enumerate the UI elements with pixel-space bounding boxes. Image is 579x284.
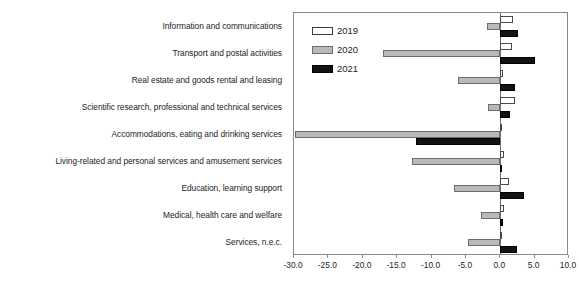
category-label: Real estate and goods rental and leasing (0, 75, 282, 85)
x-tick-mark (568, 255, 569, 258)
plot-area: 2019 2020 2021 (293, 12, 568, 255)
category-label: Accommodations, eating and drinking serv… (0, 129, 282, 139)
legend-label-2021: 2021 (337, 63, 358, 74)
bar-2019-1 (500, 43, 512, 50)
category-label: Living-related and personal services and… (0, 156, 282, 166)
bar-2019-7 (500, 205, 504, 212)
legend-swatch-2021 (312, 65, 333, 73)
horizontal-bar-chart: Information and communicationsTransport … (0, 0, 579, 284)
legend-label-2020: 2020 (337, 44, 358, 55)
bar-2020-1 (383, 50, 500, 57)
x-tick-mark (465, 255, 466, 258)
x-tick-label: -30.0 (283, 260, 302, 270)
x-tick-label: -15.0 (387, 260, 406, 270)
category-label: Transport and postal activities (0, 48, 282, 58)
x-tick-mark (362, 255, 363, 258)
x-tick-label: -20.0 (352, 260, 371, 270)
bar-2019-5 (500, 151, 504, 158)
bar-2020-6 (454, 185, 500, 192)
bar-2021-8 (500, 246, 517, 253)
category-label: Services, n.e.c. (0, 237, 282, 247)
bar-2020-2 (458, 77, 501, 84)
bar-2019-6 (500, 178, 509, 185)
x-tick-label: -25.0 (318, 260, 337, 270)
bar-2021-2 (500, 84, 514, 91)
bar-2020-4 (295, 131, 500, 138)
x-tick-mark (293, 255, 294, 258)
bar-2020-7 (481, 212, 500, 219)
legend-item-2021: 2021 (312, 59, 392, 78)
x-tick-mark (431, 255, 432, 258)
bar-2020-8 (468, 239, 500, 246)
legend-swatch-2019 (312, 27, 333, 35)
legend-swatch-2020 (312, 46, 333, 54)
legend-label-2019: 2019 (337, 25, 358, 36)
legend-item-2019: 2019 (312, 21, 392, 40)
x-tick-mark (396, 255, 397, 258)
x-tick-label: 0.0 (493, 260, 505, 270)
bar-2019-3 (500, 97, 514, 104)
category-label: Scientific research, professional and te… (0, 102, 282, 112)
x-tick-label: -10.0 (421, 260, 440, 270)
legend-item-2020: 2020 (312, 40, 392, 59)
category-label: Information and communications (0, 21, 282, 31)
category-label: Medical, health care and welfare (0, 210, 282, 220)
bar-2019-8 (500, 232, 502, 239)
bar-2021-3 (500, 111, 510, 118)
x-tick-mark (534, 255, 535, 258)
bar-2020-5 (412, 158, 501, 165)
category-axis-labels: Information and communicationsTransport … (0, 12, 288, 255)
category-label: Education, learning support (0, 183, 282, 193)
bar-2021-5 (500, 165, 502, 172)
x-tick-label: 5.0 (528, 260, 540, 270)
bar-2021-4 (416, 138, 501, 145)
bar-2021-1 (500, 57, 534, 64)
bar-2021-7 (500, 219, 503, 226)
bar-2020-3 (488, 104, 500, 111)
x-tick-label: 10.0 (560, 260, 576, 270)
bar-2020-0 (487, 23, 501, 30)
bar-2019-2 (500, 70, 503, 77)
x-axis: (%) -30.0-25.0-20.0-15.0-10.0-5.00.05.01… (293, 255, 568, 277)
bar-2021-6 (500, 192, 524, 199)
bar-2019-4 (500, 124, 502, 131)
chart-legend: 2019 2020 2021 (312, 21, 392, 78)
bar-2019-0 (500, 16, 512, 23)
bar-2021-0 (500, 30, 518, 37)
x-tick-mark (327, 255, 328, 258)
x-tick-label: -5.0 (458, 260, 472, 270)
x-tick-mark (499, 255, 500, 258)
